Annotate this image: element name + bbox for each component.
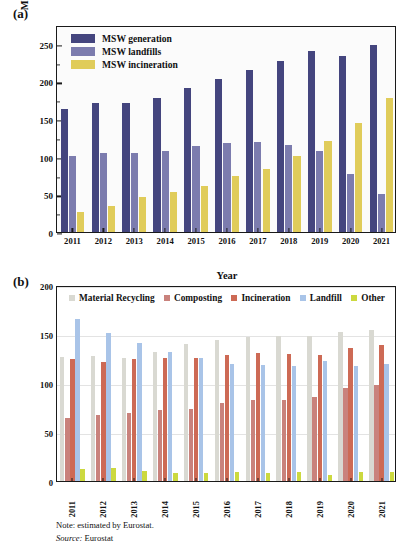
panel-a-y-tick-mark-minor: [57, 177, 60, 178]
panel-b-bar-material_recycling-2019: [307, 336, 311, 481]
panel-a-bar-msw_landfills-2014: [162, 151, 169, 232]
panel-b-x-tick-mark: [72, 478, 73, 481]
panel-b-bar-incineration-2013: [132, 359, 136, 482]
panel-b-legend-label: Incineration: [241, 293, 290, 303]
panel-a-bar-msw_incineration-2014: [170, 192, 177, 232]
panel-a-legend-label: MSW landfills: [102, 46, 161, 57]
panel-b-bar-landfill-2015: [199, 358, 203, 481]
panel-b-x-tick-mark: [319, 478, 320, 481]
panel-a-y-tick-mark: [57, 233, 62, 234]
panel-a-bar-msw_incineration-2020: [355, 123, 362, 232]
panel-a-y-tick-mark-minor: [57, 215, 60, 216]
panel-a-x-tick-label: 2013: [126, 236, 143, 246]
panel-a-bar-msw_landfills-2016: [223, 143, 230, 232]
panel-b-bar-other-2014: [173, 473, 177, 481]
panel-b-bar-material_recycling-2016: [215, 340, 219, 481]
panel-b-x-tick-mark: [288, 478, 289, 481]
panel-a-x-tick-label: 2016: [218, 236, 235, 246]
panel-b-x-tick-mark: [257, 478, 258, 481]
panel-b-bar-landfill-2016: [230, 364, 234, 481]
panel-a-bar-msw_generation-2015: [184, 88, 191, 232]
panel-a-x-tick-mark: [226, 228, 227, 232]
panel-a-bar-msw_landfills-2015: [192, 146, 199, 232]
panel-b-bar-material_recycling-2014: [153, 352, 157, 481]
panel-b-x-tick-label: 2013: [130, 501, 139, 518]
panel-b-bar-landfill-2012: [106, 333, 110, 481]
panel-a-bar-msw_incineration-2018: [293, 156, 300, 232]
panel-b-bar-landfill-2011: [75, 319, 79, 481]
panel-a-bar-msw_generation-2016: [215, 79, 222, 232]
panel-b-y-tick-label: 100: [40, 380, 53, 390]
panel-b-legend-label: Material Recycling: [79, 293, 155, 303]
panel-b-x-tick-label: 2018: [284, 501, 293, 518]
panel-b-x-tick-label: 2015: [192, 501, 201, 518]
figure-root: (a) MSW generation (Million tonnes) 0501…: [0, 0, 409, 554]
legend-swatch-icon: [69, 295, 75, 301]
panel-b-bar-incineration-2020: [348, 348, 352, 481]
panel-a-x-tick-mark: [134, 228, 135, 232]
panel-b-bar-incineration-2019: [318, 355, 322, 481]
panel-a-bar-msw_incineration-2017: [263, 169, 270, 232]
panel-a-legend-item-msw_incineration: MSW incineration: [71, 59, 178, 70]
panel-a-y-tick-mark: [57, 45, 62, 46]
panel-b-x-tick-label: 2019: [315, 501, 324, 518]
panel-a-y-tick-label: 100: [40, 154, 54, 164]
panel-a-bar-msw_landfills-2018: [285, 145, 292, 232]
panel-b-bar-landfill-2017: [261, 365, 265, 481]
legend-swatch-icon: [71, 47, 95, 56]
panel-b-bar-material_recycling-2017: [246, 337, 250, 481]
panel-a-bar-msw_generation-2014: [153, 98, 160, 232]
panel-a-x-tick-mark: [350, 228, 351, 232]
panel-b-bar-incineration-2021: [379, 345, 383, 481]
panel-b-legend-item-composting: Composting: [164, 293, 222, 303]
panel-b-bar-material_recycling-2018: [276, 336, 280, 481]
panel-a-bar-msw_landfills-2011: [69, 156, 76, 232]
chart-source: Source: Eurostat: [56, 533, 113, 543]
panel-b-bar-composting-2017: [251, 400, 255, 481]
panel-a-y-tick-mark: [57, 83, 62, 84]
legend-swatch-icon: [300, 295, 306, 301]
panel-b-bar-other-2021: [390, 472, 394, 481]
panel-b-x-tick-label: 2011: [68, 501, 77, 517]
panel-b-bar-other-2013: [142, 471, 146, 481]
panel-a-x-tick-mark: [195, 228, 196, 232]
panel-a-bar-msw_landfills-2012: [100, 153, 107, 232]
panel-a-x-tick-label: 2014: [157, 236, 174, 246]
legend-swatch-icon: [71, 34, 95, 43]
panel-b-x-tick-label: 2020: [346, 501, 355, 518]
panel-b-bar-other-2018: [297, 472, 301, 481]
panel-a-x-tick-mark: [381, 228, 382, 232]
panel-b-bar-other-2019: [328, 475, 332, 481]
panel-a-legend-label: MSW generation: [102, 33, 172, 44]
panel-a-plot-area: MSW generation (Million tonnes) 05010015…: [56, 26, 396, 233]
panel-a-x-tick-mark: [319, 228, 320, 232]
panel-b-y-tick-label: 150: [40, 331, 53, 341]
panel-b-y-tick-label: 0: [49, 478, 53, 488]
panel-a-bar-msw_generation-2012: [92, 103, 99, 232]
panel-a-y-tick-label: 250: [40, 41, 54, 51]
panel-a-y-tick-label: 50: [44, 191, 53, 201]
panel-b-legend-item-material_recycling: Material Recycling: [69, 293, 155, 303]
panel-b-legend: Material RecyclingCompostingIncineration…: [69, 293, 385, 303]
panel-a-x-tick-label: 2012: [95, 236, 112, 246]
panel-b-legend-item-landfill: Landfill: [300, 293, 342, 303]
panel-a-bar-msw_incineration-2021: [386, 98, 393, 232]
legend-swatch-icon: [71, 60, 95, 69]
panel-a-x-tick-label: 2019: [311, 236, 328, 246]
panel-b-bar-material_recycling-2011: [60, 357, 64, 481]
panel-a-y-tick-label: 200: [40, 78, 54, 88]
panel-a-bar-msw_generation-2011: [61, 109, 68, 232]
panel-a-y-tick-label: 0: [49, 229, 54, 239]
panel-a-x-tick-mark: [165, 228, 166, 232]
panel-b-label: (b): [13, 274, 29, 290]
panel-b-x-tick-mark: [227, 478, 228, 481]
panel-b-x-tick-mark: [350, 478, 351, 481]
panel-b-bar-composting-2018: [282, 400, 286, 481]
panel-b-bar-incineration-2016: [225, 355, 229, 481]
panel-b-bar-landfill-2018: [292, 366, 296, 481]
panel-b-bar-incineration-2018: [287, 354, 291, 481]
legend-swatch-icon: [164, 295, 170, 301]
panel-b-bar-other-2016: [235, 472, 239, 481]
source-keyword: Source:: [56, 533, 82, 543]
panel-b-x-tick-mark: [381, 478, 382, 481]
